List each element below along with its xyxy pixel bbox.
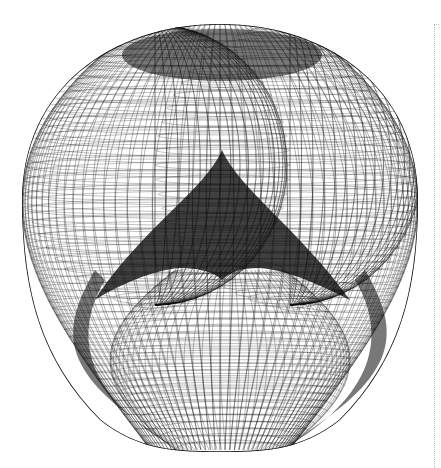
panel-divider	[434, 24, 435, 468]
wireframe-surface	[0, 0, 441, 468]
mesh-group	[20, 20, 425, 452]
panel-divider-tick	[434, 24, 439, 25]
